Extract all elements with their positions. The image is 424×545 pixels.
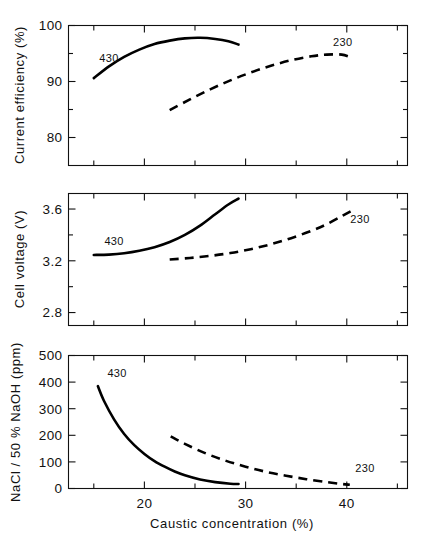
p3-y-tick-label: 400	[39, 375, 63, 390]
p3-y-tick-label: 300	[39, 402, 63, 417]
p1-y-tick-label: 90	[47, 74, 63, 89]
series-annotation-230: 230	[350, 213, 369, 225]
p1-y-tick-label: 100	[39, 18, 63, 33]
series-annotation-230: 230	[333, 36, 352, 48]
p3-y-tick-label: 100	[39, 455, 63, 470]
series-annotation-230: 230	[355, 462, 374, 474]
p2-y-tick-label: 2.8	[43, 305, 63, 320]
x-tick-label: 20	[136, 496, 152, 511]
panel2-y-axis-title: Cell voltage (V)	[12, 210, 27, 308]
p2-y-tick-label: 3.6	[43, 202, 63, 217]
p2-y-tick-label: 3.2	[43, 254, 63, 269]
p3-y-tick-label: 200	[39, 428, 63, 443]
panel3-y-axis-title: NaCl / 50 % NaOH (ppm)	[8, 342, 23, 502]
panel1-y-axis-title: Current efficiency (%)	[12, 26, 27, 164]
series-annotation-430: 430	[107, 367, 126, 379]
x-tick-label: 30	[238, 496, 254, 511]
p3-y-tick-label: 500	[39, 348, 63, 363]
p3-y-tick-label: 0	[55, 481, 63, 496]
multi-panel-chart: 8090100 430230 Current efficiency (%) 2.…	[0, 0, 424, 545]
figure-root: 8090100 430230 Current efficiency (%) 2.…	[0, 0, 424, 545]
p1-y-tick-label: 80	[47, 130, 63, 145]
series-annotation-430: 430	[104, 235, 123, 247]
x-tick-label: 40	[339, 496, 355, 511]
x-axis-title: Caustic concentration (%)	[150, 516, 314, 531]
series-annotation-430: 430	[99, 52, 118, 64]
